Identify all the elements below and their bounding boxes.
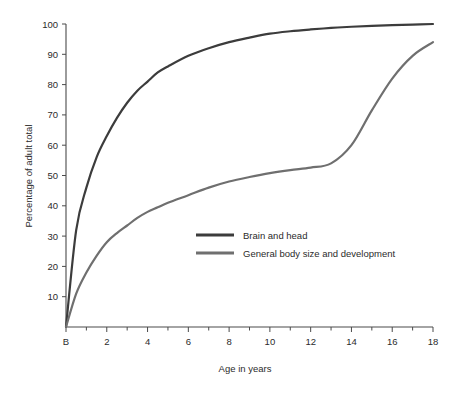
x-tick-label: B xyxy=(63,336,69,347)
y-tick-label: 10 xyxy=(47,291,58,302)
x-tick-label: 14 xyxy=(346,336,357,347)
x-tick-label: 8 xyxy=(226,336,231,347)
series-line-1 xyxy=(66,42,433,327)
y-tick-label: 30 xyxy=(47,231,58,242)
x-tick-label: 12 xyxy=(305,336,316,347)
series-line-0 xyxy=(66,24,433,327)
y-tick-label: 70 xyxy=(47,109,58,120)
y-tick-label: 50 xyxy=(47,170,58,181)
y-tick-label: 80 xyxy=(47,79,58,90)
chart-container: 102030405060708090100 B24681012141618 Pe… xyxy=(0,0,465,394)
y-axis-tick-labels: 102030405060708090100 xyxy=(42,19,58,303)
x-tick-label: 4 xyxy=(145,336,150,347)
x-tick-label: 2 xyxy=(104,336,109,347)
y-tick-label: 90 xyxy=(47,49,58,60)
chart-legend: Brain and headGeneral body size and deve… xyxy=(196,230,395,259)
y-axis-title: Percentage of adult total xyxy=(23,125,34,228)
y-axis-ticks xyxy=(62,24,66,297)
y-tick-label: 20 xyxy=(47,261,58,272)
x-tick-label: 10 xyxy=(265,336,276,347)
legend-label-1: General body size and development xyxy=(243,248,395,259)
y-tick-label: 60 xyxy=(47,140,58,151)
y-tick-label: 40 xyxy=(47,200,58,211)
x-axis-tick-labels: B24681012141618 xyxy=(63,336,438,347)
x-tick-label: 6 xyxy=(186,336,191,347)
legend-label-0: Brain and head xyxy=(243,230,307,241)
growth-curves-chart: 102030405060708090100 B24681012141618 Pe… xyxy=(0,0,465,394)
series-lines xyxy=(66,24,433,327)
x-axis-title: Age in years xyxy=(219,363,272,374)
x-tick-label: 18 xyxy=(428,336,439,347)
x-tick-label: 16 xyxy=(387,336,398,347)
y-tick-label: 100 xyxy=(42,19,58,30)
